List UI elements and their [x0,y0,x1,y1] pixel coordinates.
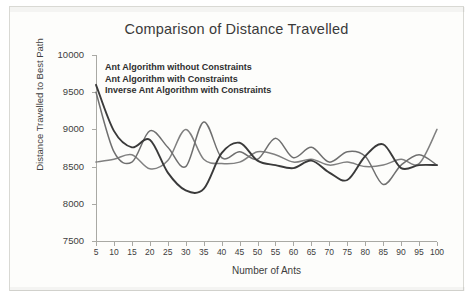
chart-card: Comparison of Distance Travelled Distanc… [9,6,464,291]
series-line [96,85,437,193]
scan-artifact-top [10,7,465,12]
scan-artifact-bottom [10,287,465,291]
series-plot [10,7,465,292]
